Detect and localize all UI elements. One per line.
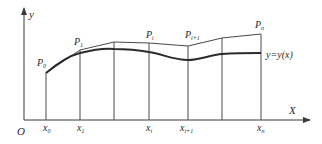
point-label-pi1: Pi+1 (184, 29, 200, 41)
point-label-p0: P0 (36, 57, 46, 69)
x-axis-label: X (288, 104, 297, 116)
x-tick-labels: x0 x1 xi xi+1 xn (42, 122, 264, 134)
curve-label: y=y(x) (265, 49, 293, 61)
origin-label: O (17, 125, 25, 137)
point-label-pi: Pi (145, 29, 154, 41)
arc-length-diagram: y X O y=y(x) P0 P1 Pi Pi+1 Pn x0 x1 xi x… (0, 0, 322, 144)
point-label-pn: Pn (254, 19, 264, 31)
curve-y-of-x (46, 49, 261, 73)
point-labels: P0 P1 Pi Pi+1 Pn (36, 19, 264, 69)
x-label-xi: xi (145, 122, 152, 134)
x-label-xi1: xi+1 (179, 122, 193, 134)
x-label-xn: xn (256, 122, 264, 134)
point-label-p1: P1 (73, 36, 83, 48)
x-label-x1: x1 (76, 122, 84, 134)
y-axis-label: y (28, 8, 34, 20)
x-label-x0: x0 (42, 122, 50, 134)
